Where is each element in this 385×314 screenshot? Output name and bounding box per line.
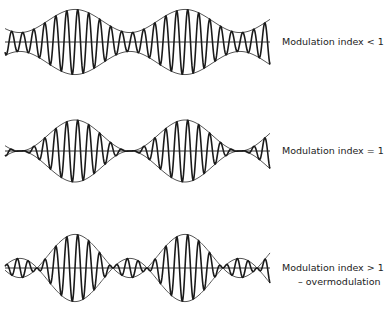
upper-envelope-under (5, 9, 270, 32)
upper-envelope-unity (5, 120, 270, 151)
label-overmodulation: – overmodulation (298, 276, 381, 287)
lower-envelope-under (5, 51, 270, 74)
lower-envelope-over (5, 258, 270, 301)
lower-envelope-unity (5, 151, 270, 182)
label-modulation-under: Modulation index < 1 (282, 36, 384, 47)
label-modulation-over: Modulation index > 1 (282, 262, 384, 273)
label-modulation-unity: Modulation index = 1 (282, 145, 384, 156)
